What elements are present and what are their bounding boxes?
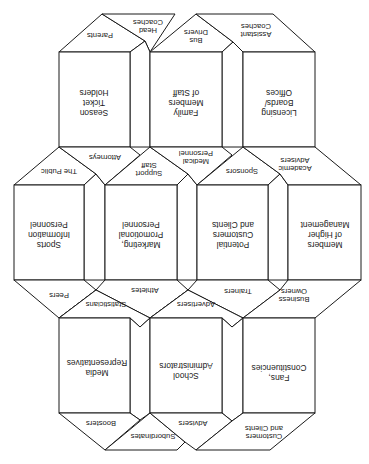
svg-text:Information: Information bbox=[28, 230, 70, 240]
svg-text:Owners: Owners bbox=[281, 287, 307, 296]
svg-text:Family: Family bbox=[173, 108, 198, 118]
svg-text:Members: Members bbox=[169, 98, 204, 108]
svg-text:Parents: Parents bbox=[87, 31, 113, 40]
svg-text:Advisers: Advisers bbox=[280, 156, 309, 165]
svg-text:Personnel: Personnel bbox=[179, 149, 214, 158]
side-panel bbox=[130, 318, 150, 420]
svg-text:Administrators: Administrators bbox=[159, 361, 213, 371]
svg-text:Fans,: Fans, bbox=[269, 373, 290, 383]
label-boosters: Boosters bbox=[86, 419, 116, 428]
side-panel bbox=[84, 174, 105, 280]
label-licensing-boards: Licensing Boards/ Offices bbox=[261, 88, 297, 118]
label-peers: Peers bbox=[49, 291, 69, 300]
side-panel bbox=[268, 174, 288, 280]
svg-text:of Higher: of Higher bbox=[308, 230, 342, 240]
svg-text:Coaches: Coaches bbox=[241, 22, 271, 31]
svg-text:Boards/: Boards/ bbox=[264, 98, 294, 108]
label-parents: Parents bbox=[87, 31, 113, 40]
svg-text:Statisticians: Statisticians bbox=[86, 300, 127, 309]
stakeholder-cube-diagram: Season Ticket Holders Parents Head Coach… bbox=[0, 0, 369, 464]
svg-text:of Staff: of Staff bbox=[172, 88, 199, 98]
label-subordinates: Subordinates bbox=[130, 432, 175, 441]
label-sponsors: Sponsors bbox=[226, 167, 258, 176]
svg-text:Season: Season bbox=[79, 108, 108, 118]
label-academic-advisers: Academic Advisers bbox=[278, 156, 312, 173]
svg-text:Trainers: Trainers bbox=[224, 287, 252, 296]
svg-text:Staff: Staff bbox=[140, 161, 156, 170]
svg-text:Attorneys: Attorneys bbox=[89, 153, 121, 162]
side-panel bbox=[130, 41, 150, 147]
svg-text:Sports: Sports bbox=[37, 240, 61, 250]
side-panel bbox=[222, 42, 243, 147]
svg-text:Coaches: Coaches bbox=[133, 18, 163, 27]
svg-text:Licensing: Licensing bbox=[261, 108, 297, 118]
svg-text:Peers: Peers bbox=[49, 291, 69, 300]
label-advisers: Advisers bbox=[178, 419, 207, 428]
label-statisticians: Statisticians bbox=[86, 300, 127, 309]
label-potential-customers: Potential Customers and Clients bbox=[212, 220, 254, 250]
svg-text:Potential: Potential bbox=[217, 240, 250, 250]
label-athletes: Athletes bbox=[131, 286, 159, 295]
svg-text:Ticket: Ticket bbox=[82, 98, 105, 108]
svg-text:Management: Management bbox=[300, 220, 350, 230]
svg-text:Representatives: Representatives bbox=[67, 358, 128, 368]
svg-text:Holders: Holders bbox=[80, 88, 109, 98]
label-season-ticket-holders: Season Ticket Holders bbox=[79, 88, 108, 118]
side-panel bbox=[222, 318, 243, 421]
svg-text:Sponsors: Sponsors bbox=[226, 167, 258, 176]
svg-text:Constituencies: Constituencies bbox=[252, 363, 307, 373]
svg-text:Boosters: Boosters bbox=[86, 419, 116, 428]
svg-text:Athletes: Athletes bbox=[131, 286, 159, 295]
label-family-members: Family Members of Staff bbox=[169, 88, 204, 118]
svg-text:and Clients: and Clients bbox=[212, 220, 254, 230]
label-assistant-coaches: Assistant Coaches bbox=[240, 22, 272, 39]
svg-text:Promotional: Promotional bbox=[119, 230, 164, 240]
label-customers-and-clients: Customers and Clients bbox=[245, 424, 283, 441]
svg-text:The Public: The Public bbox=[41, 167, 77, 176]
svg-text:Marketing,: Marketing, bbox=[121, 240, 160, 250]
label-advertisers: Advertisers bbox=[177, 300, 215, 309]
svg-text:Personnel: Personnel bbox=[122, 220, 160, 230]
label-medical-personnel: Medical Personnel bbox=[179, 149, 214, 166]
svg-text:Drivers: Drivers bbox=[184, 28, 208, 37]
label-business-owners: Business Owners bbox=[278, 287, 309, 304]
label-attorneys: Attorneys bbox=[89, 153, 121, 162]
svg-text:Offices: Offices bbox=[266, 88, 292, 98]
svg-text:Members: Members bbox=[308, 240, 343, 250]
label-marketing-promotional: Marketing, Promotional Personnel bbox=[119, 220, 164, 250]
svg-text:School: School bbox=[173, 371, 199, 381]
svg-text:Customers: Customers bbox=[213, 230, 254, 240]
side-panel bbox=[177, 174, 197, 280]
label-trainers: Trainers bbox=[224, 287, 252, 296]
svg-text:Subordinates: Subordinates bbox=[130, 432, 175, 441]
label-the-public: The Public bbox=[41, 167, 77, 176]
svg-text:and Clients: and Clients bbox=[245, 424, 283, 433]
svg-text:Advisers: Advisers bbox=[178, 419, 207, 428]
svg-text:Personnel: Personnel bbox=[30, 220, 68, 230]
svg-text:Advertisers: Advertisers bbox=[177, 300, 215, 309]
svg-text:Media: Media bbox=[85, 368, 108, 378]
